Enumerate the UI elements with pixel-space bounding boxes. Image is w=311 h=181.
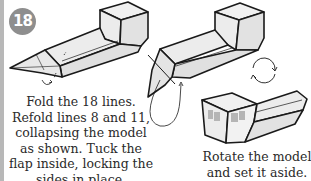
- instruction-fold: Fold the 18 lines. Refold lines 8 and 11…: [8, 94, 154, 181]
- rotate-icon: [251, 58, 277, 83]
- model-rotated: [202, 91, 307, 143]
- instruction-rotate: Rotate the model and set it aside.: [202, 149, 311, 180]
- model-before-fold: [10, 2, 148, 85]
